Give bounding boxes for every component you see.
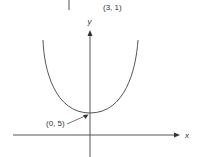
top-point-label: (3, 1) xyxy=(103,3,122,12)
parabola-diagram: (3, 1) y x (0, 5) xyxy=(0,0,198,157)
y-axis-label: y xyxy=(87,17,93,26)
x-axis-label: x xyxy=(184,131,190,140)
vertex-label: (0, 5) xyxy=(46,119,65,128)
x-axis-arrow-icon xyxy=(174,133,180,138)
vertex-pointer-line xyxy=(67,116,85,124)
y-axis-arrow-icon xyxy=(88,30,93,36)
